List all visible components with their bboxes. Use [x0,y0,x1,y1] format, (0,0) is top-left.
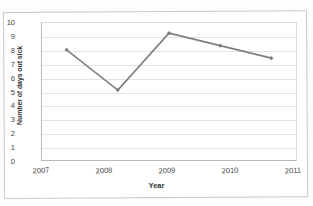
data-point-2011 [269,56,273,60]
data-point-2010 [218,44,222,48]
x-axis-title: Year [0,181,313,190]
chart-screenshot: Number of days out sick 10 9 8 7 6 5 4 3… [0,0,313,206]
series-line-days-out-sick [67,33,272,90]
line-chart: Number of days out sick 10 9 8 7 6 5 4 3… [0,0,313,206]
series-markers [65,31,274,92]
